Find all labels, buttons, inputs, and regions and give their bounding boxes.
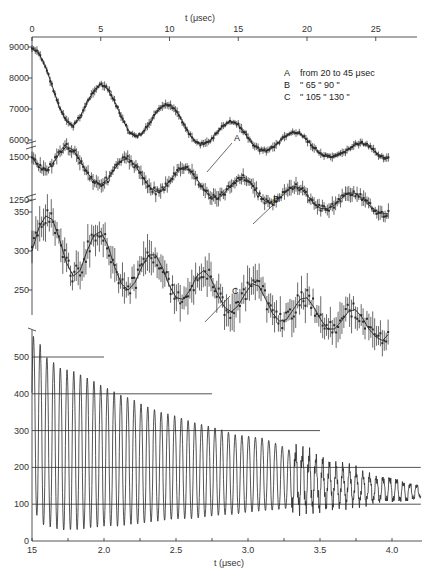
legend-key-C: C [284,92,291,102]
x-tick-label: 0 [29,24,34,34]
lower-plot-area [32,336,421,530]
y-tick-label: 350 [14,207,29,217]
axis-break [26,146,36,149]
y-tick-label: 6000 [9,135,29,145]
legend-entry-B: " 65 " 90 " [300,80,340,90]
x-tick-label: 3.0 [242,545,255,555]
legend-key-A: A [284,68,290,78]
figure: 0510152025t (μsec)6000700080009000125015… [0,0,438,580]
x-tick-label: 2.0 [98,545,111,555]
x-tick-label: 5 [98,24,103,34]
x-tick-label: 2.5 [170,545,183,555]
series-B [31,138,389,222]
oscillation-trace [32,336,421,530]
legend-entry-A: from 20 to 45 μsec [300,68,375,78]
legend-key-B: B [284,80,290,90]
y-tick-label: 8000 [9,73,29,83]
series-pointer-B [253,205,273,224]
y-tick-label: 9000 [9,42,29,52]
upper-x-axis-title: t (μsec) [185,13,215,23]
y-tick-label: 100 [14,499,29,509]
y-tick-label: 300 [14,426,29,436]
series-A [31,45,389,162]
x-tick-label: 20 [302,24,312,34]
y-tick-label: 250 [14,285,29,295]
x-tick-label: 25 [371,24,381,34]
y-tick-label: 200 [14,462,29,472]
y-tick-label: 1250 [9,195,29,205]
lower-x-axis-title: t (μsec) [214,558,244,568]
legend: Afrom 20 to 45 μsecB" 65 " 90 "C" 105 " … [284,68,375,102]
x-tick-label: 15 [27,545,37,555]
series-pointer-A [207,143,232,172]
series-label-B: B [273,194,279,204]
series-label-A: A [234,133,240,143]
x-tick-label: 4.0 [386,545,399,555]
y-tick-label: 300 [14,246,29,256]
x-tick-label: 3.5 [314,545,327,555]
y-tick-label: 0 [24,536,29,546]
x-tick-label: 15 [233,24,243,34]
series-C [31,194,389,356]
legend-entry-C: " 105 " 130 " [300,92,350,102]
x-tick-label: 10 [164,24,174,34]
y-tick-label: 500 [14,352,29,362]
fit-curve [32,216,388,341]
y-tick-label: 7000 [9,104,29,114]
y-tick-label: 1500 [9,152,29,162]
y-tick-label: 400 [14,389,29,399]
series-label-C: C [232,286,239,296]
